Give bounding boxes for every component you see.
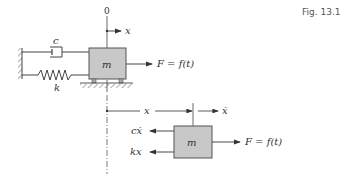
origin-label: 0 <box>104 6 110 16</box>
position-label: x <box>125 25 131 36</box>
diagram-canvas: Fig. 13.1 c k 0 x m F <box>0 0 349 182</box>
damper <box>22 47 89 57</box>
wall-hatch <box>18 48 22 79</box>
damper-label: c <box>53 35 59 46</box>
spring-label: k <box>54 82 60 93</box>
spring <box>22 70 89 80</box>
fbd-mass-label: m <box>187 137 196 148</box>
figure-label: Fig. 13.1 <box>302 7 341 17</box>
free-body-diagram: x ẋ m cẋ kx F = f(t) <box>106 95 282 174</box>
spring-mass-damper-system: c k 0 x m F = f(t) <box>18 6 194 93</box>
damping-force-label: cẋ <box>131 125 143 136</box>
displacement-label: x <box>144 105 150 116</box>
mass-label: m <box>102 59 111 70</box>
spring-force-label: kx <box>130 146 142 157</box>
force-label: F = f(t) <box>156 58 194 69</box>
wheel-right <box>119 79 123 83</box>
velocity-label: ẋ <box>222 105 228 116</box>
wheel-left <box>92 79 96 83</box>
ground-hatch <box>80 84 133 88</box>
fbd-force-label: F = f(t) <box>244 136 282 147</box>
